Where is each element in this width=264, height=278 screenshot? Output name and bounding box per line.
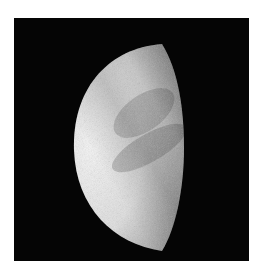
space-background (14, 18, 249, 261)
planet-image (14, 18, 249, 261)
